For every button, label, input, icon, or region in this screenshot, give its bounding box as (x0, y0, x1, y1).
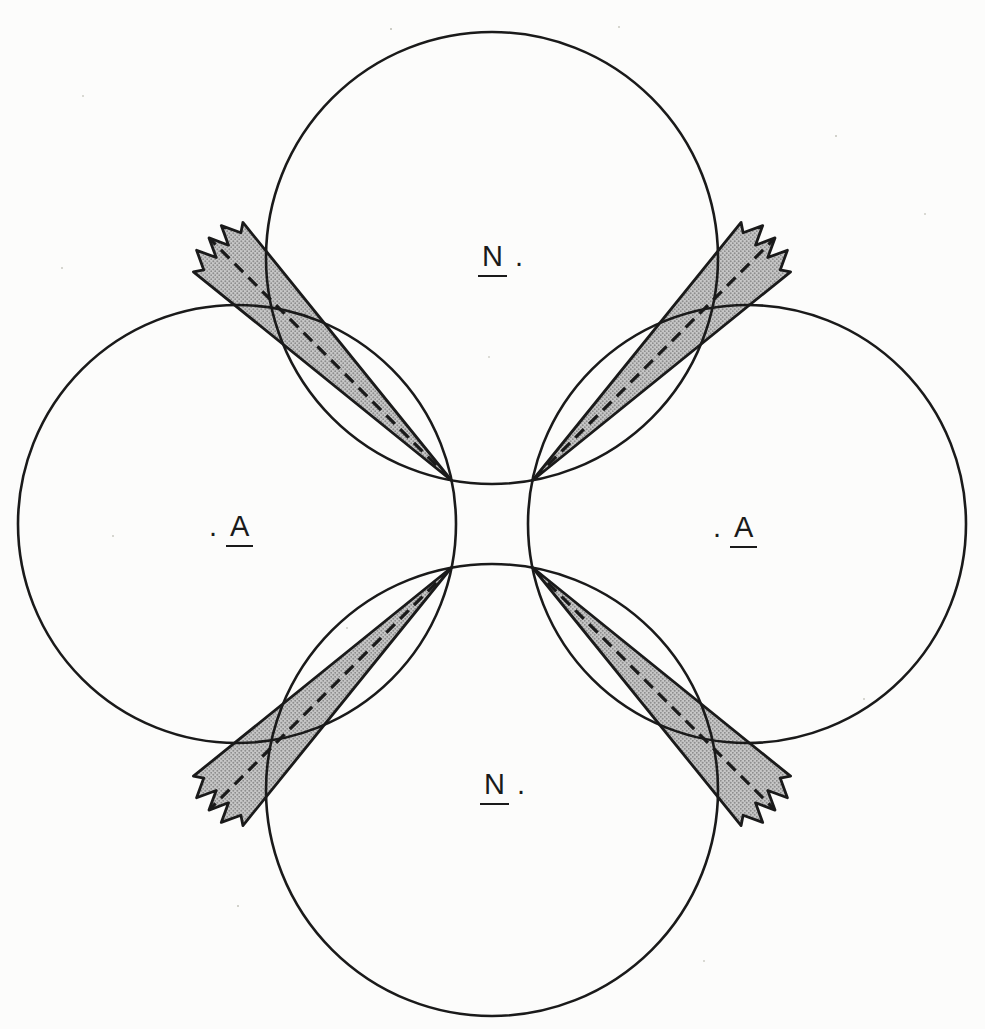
label-dot: . (517, 768, 525, 801)
label-letter: A (730, 511, 757, 548)
label-top-n: N. (478, 240, 523, 277)
label-bottom-n: N. (480, 768, 525, 805)
label-right-a: .A (713, 511, 757, 548)
label-letter: N (480, 768, 509, 805)
label-dot: . (713, 511, 721, 544)
shaded-cone-lower-right (533, 568, 791, 826)
shaded-cone-upper-right (533, 222, 791, 480)
label-letter: N (478, 240, 507, 277)
overlap-diagram-svg (0, 0, 985, 1029)
label-letter: A (226, 510, 253, 547)
label-dot: . (515, 240, 523, 273)
label-left-a: .A (209, 510, 253, 547)
shaded-cone-upper-left (193, 222, 451, 480)
shaded-cone-lower-left (193, 568, 451, 826)
label-dot: . (209, 510, 217, 543)
figure-canvas: N. .A .A N. (0, 0, 985, 1029)
